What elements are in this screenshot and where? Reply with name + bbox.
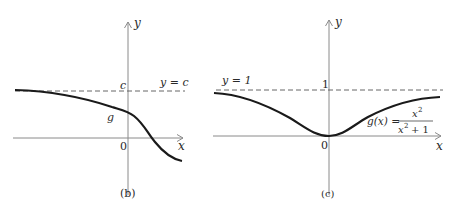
panel-c: y x 0 1 y = 1 g(x) = x 2 x 2 + 1 (c) <box>213 15 443 199</box>
origin-label: 0 <box>321 139 328 152</box>
curve-g <box>15 90 182 161</box>
asymptote-label: y = 1 <box>221 74 251 87</box>
x-axis-label: x <box>178 139 185 153</box>
function-denominator-exp: 2 <box>404 122 408 130</box>
asymptote-label: y = c <box>159 76 189 89</box>
function-numerator-exp: 2 <box>418 106 422 114</box>
function-denominator-rest: + 1 <box>411 124 429 135</box>
x-axis-label: x <box>436 139 443 153</box>
caption: (c) <box>321 188 335 199</box>
asymptote-tick-label: 1 <box>322 78 329 91</box>
asymptote-tick-label: c <box>120 79 126 92</box>
figure: y x 0 c y = c g (b) y x 0 1 y = 1 g(x) =… <box>0 0 451 209</box>
y-axis-label: y <box>334 15 342 29</box>
panel-b: y x 0 c y = c g (b) <box>13 16 189 200</box>
origin-label: 0 <box>120 140 127 153</box>
function-lhs: g(x) = <box>367 115 400 127</box>
curve-label: g <box>107 111 114 124</box>
function-label: g(x) = x 2 x 2 + 1 <box>367 106 433 135</box>
y-axis-label: y <box>133 16 141 30</box>
caption: (b) <box>120 187 136 200</box>
